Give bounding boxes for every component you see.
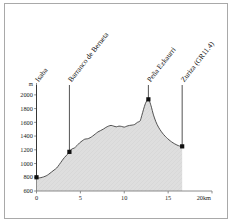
y-axis-unit-label: m — [29, 81, 34, 87]
poi-label-text: Zuriza (GR11.4) — [179, 39, 217, 84]
poi-labels: IsabaBarranco de BeruetaPeña EzkaurriZur… — [33, 30, 216, 84]
x-tick-label: 5 — [79, 194, 82, 201]
poi-label-text: Isaba — [33, 65, 50, 83]
y-tick-label: 1000 — [20, 160, 33, 167]
poi-label-text: Barranco de Berueta — [66, 30, 111, 84]
y-tick-label: 1600 — [20, 119, 33, 126]
x-tick-label: 20km — [197, 194, 211, 201]
elevation-profile-chart: 600800100012001400160018002000m 05101520… — [0, 0, 233, 224]
x-axis: 05101520km — [35, 191, 212, 201]
x-tick-label: 15 — [165, 194, 171, 201]
poi-marker — [146, 97, 150, 101]
elevation-profile-figure: 600800100012001400160018002000m 05101520… — [0, 0, 233, 224]
y-tick-label: 1200 — [20, 146, 33, 153]
x-tick-label: 10 — [121, 194, 127, 201]
poi-marker — [34, 175, 38, 179]
y-tick-label: 2000 — [20, 91, 33, 98]
y-tick-label: 800 — [23, 173, 32, 180]
profile-area-fill — [37, 99, 183, 191]
y-tick-label: 600 — [23, 187, 32, 194]
poi-marker — [67, 150, 71, 154]
poi-marker — [180, 144, 184, 148]
x-tick-label: 0 — [35, 194, 38, 201]
profile-area — [37, 99, 183, 191]
poi-label-text: Peña Ezkaurri — [145, 45, 178, 83]
y-axis: 600800100012001400160018002000m — [20, 81, 36, 194]
y-tick-label: 1800 — [20, 105, 33, 112]
y-tick-label: 1400 — [20, 132, 33, 139]
